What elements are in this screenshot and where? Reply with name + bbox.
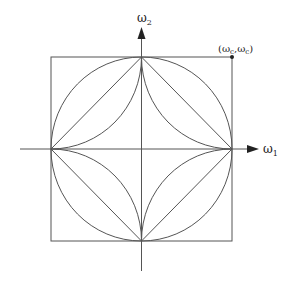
y-axis-arrow-icon (138, 27, 146, 39)
x-axis-arrow-icon (247, 145, 259, 153)
y-axis-label: ω2 (137, 11, 152, 27)
x-axis-label: ω1 (263, 142, 278, 158)
corner-point-label: (ωc,ωc) (218, 43, 253, 56)
frequency-region-diagram: ω1 ω2 (ωc,ωc) (0, 0, 286, 287)
